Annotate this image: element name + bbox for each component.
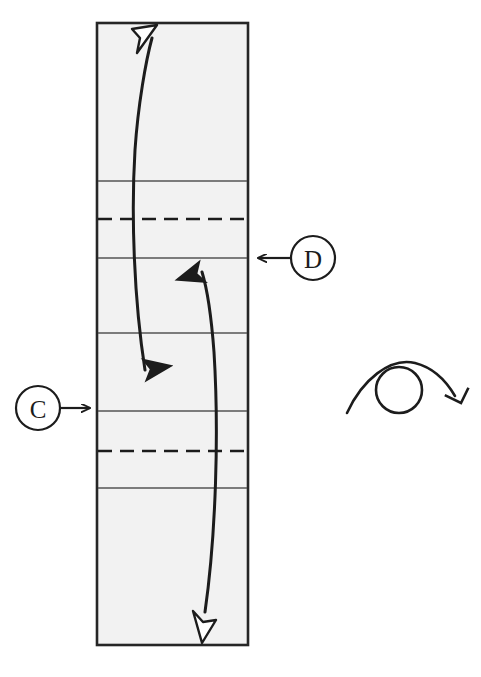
rotation-indicator-arc <box>347 362 455 413</box>
callout-d-label: D <box>304 246 322 273</box>
rotation-indicator-circle <box>376 367 422 413</box>
technical-diagram: C D <box>0 0 481 677</box>
rotation-indicator <box>347 362 468 413</box>
rotation-indicator-arrow-head <box>445 380 469 403</box>
figure-container: C D <box>0 0 481 677</box>
callout-c-label: C <box>30 396 47 423</box>
callout-d[interactable]: D <box>258 236 335 280</box>
layered-column-body <box>97 23 248 645</box>
callout-c[interactable]: C <box>16 386 90 430</box>
